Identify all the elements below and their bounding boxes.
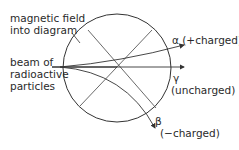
field-label-line2: into diagram [10, 24, 77, 36]
alpha-label: α (+charged) [172, 34, 239, 46]
alpha-path [60, 45, 184, 67]
magnetic-field-region [63, 14, 171, 122]
beta-label: (−charged) [160, 127, 220, 139]
gamma-symbol: γ [173, 72, 179, 84]
gamma-label: (uncharged) [171, 84, 235, 96]
beta-symbol: β [155, 115, 162, 127]
field-cross-line-1 [88, 30, 156, 108]
field-label-line1: magnetic field [10, 12, 85, 24]
beam-label-line2: radioactive [10, 68, 69, 80]
beam-label-line3: particles [10, 80, 55, 92]
beam-label-line1: beam of [10, 56, 53, 68]
beta-path [60, 67, 155, 128]
field-cross-line-2 [80, 30, 152, 106]
